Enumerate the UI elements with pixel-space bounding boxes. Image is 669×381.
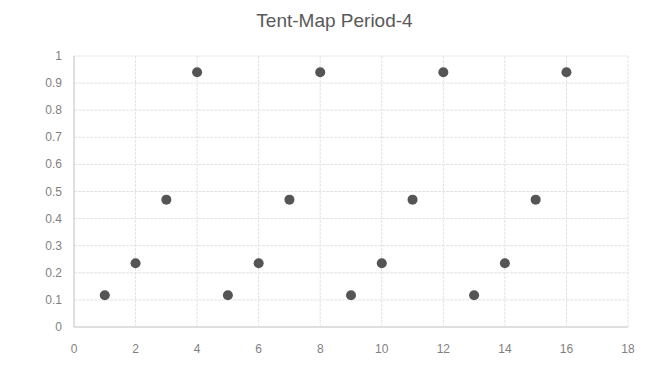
x-tick-label: 6 (255, 342, 262, 356)
data-point (315, 67, 325, 77)
data-point (223, 290, 233, 300)
data-points (100, 67, 572, 300)
x-tick-label: 12 (437, 342, 451, 356)
y-tick-label: 0.8 (45, 103, 62, 117)
y-tick-label: 0.1 (45, 293, 62, 307)
data-point (561, 67, 571, 77)
data-point (408, 195, 418, 205)
x-tick-label: 16 (560, 342, 574, 356)
y-tick-label: 0.9 (45, 76, 62, 90)
axes: 00.10.20.30.40.50.60.70.80.9102468101214… (45, 49, 635, 356)
x-tick-label: 0 (71, 342, 78, 356)
x-tick-label: 10 (375, 342, 389, 356)
data-point (284, 195, 294, 205)
data-point (377, 258, 387, 268)
data-point (346, 290, 356, 300)
data-point (531, 195, 541, 205)
x-tick-label: 14 (498, 342, 512, 356)
y-tick-label: 0.3 (45, 239, 62, 253)
data-point (100, 290, 110, 300)
data-point (161, 195, 171, 205)
data-point (500, 258, 510, 268)
grid-lines (74, 56, 628, 327)
data-point (254, 258, 264, 268)
x-tick-label: 2 (132, 342, 139, 356)
y-tick-label: 0.4 (45, 212, 62, 226)
x-tick-label: 4 (194, 342, 201, 356)
data-point (131, 258, 141, 268)
y-tick-label: 1 (55, 49, 62, 63)
y-tick-label: 0.2 (45, 266, 62, 280)
scatter-chart: 00.10.20.30.40.50.60.70.80.9102468101214… (0, 0, 669, 381)
y-tick-label: 0.6 (45, 157, 62, 171)
x-tick-label: 18 (621, 342, 635, 356)
data-point (469, 290, 479, 300)
y-tick-label: 0 (55, 320, 62, 334)
data-point (438, 67, 448, 77)
y-tick-label: 0.5 (45, 185, 62, 199)
data-point (192, 67, 202, 77)
x-tick-label: 8 (317, 342, 324, 356)
y-tick-label: 0.7 (45, 130, 62, 144)
